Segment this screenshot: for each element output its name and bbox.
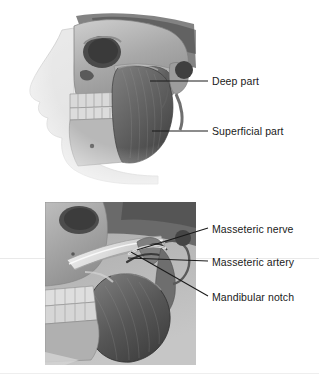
infraorbital-foramen xyxy=(71,252,75,256)
panel-deep-dissection xyxy=(45,202,196,365)
label-masseteric-nerve: Masseteric nerve xyxy=(212,224,294,235)
orbit-inner xyxy=(64,208,96,230)
label-deep-part: Deep part xyxy=(212,76,259,87)
anatomy-figure: Deep part Superficial part Masseteric ne… xyxy=(0,0,319,382)
label-masseteric-artery: Masseteric artery xyxy=(212,257,294,268)
label-superficial-part: Superficial part xyxy=(212,126,284,137)
scan-artifact-line xyxy=(0,373,319,374)
panel-vignette xyxy=(18,8,200,188)
panel-lateral-skull-with-masseter xyxy=(18,8,200,188)
label-mandibular-notch: Mandibular notch xyxy=(212,292,294,303)
external-acoustic-meatus xyxy=(175,230,191,246)
